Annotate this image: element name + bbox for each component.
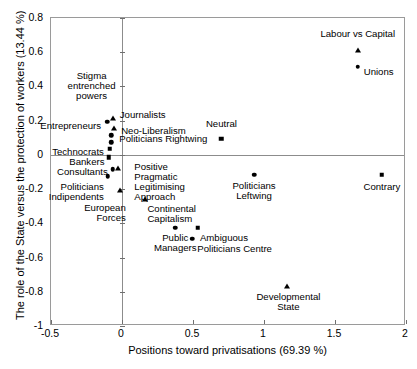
y-tick [120,223,125,224]
point-marker-triangle [110,116,116,121]
point-marker-square [219,136,224,141]
point-marker-circle [252,172,257,177]
point-label: Contrary [363,182,400,192]
plot-area: Labour vs CapitalUnionsNeutralStigma ent… [50,17,405,325]
point-label: Continental Capitalism [147,204,196,224]
point-label: European Forces [84,203,126,223]
point-marker-triangle [111,126,117,131]
point-label: Politicians Leftwing [232,181,275,201]
y-tick [120,52,125,53]
point-label: Politicians Indipendents [49,182,104,202]
point-marker-circle [105,119,110,124]
point-marker-triangle [355,47,361,52]
x-tick-label: -0.5 [41,327,59,339]
point-label: Unions [364,67,394,77]
x-tick [122,320,123,324]
x-tick [406,320,407,324]
x-axis-title: Positions toward privatisations (69.39 %… [50,344,405,356]
point-label: Consultants [57,167,108,177]
x-zero-reference-line [122,18,123,324]
y-tick-label: 0 [37,148,43,160]
point-marker-circle [173,225,178,230]
y-tick-label: -0.6 [25,251,43,263]
y-tick [120,86,125,87]
point-marker-circle [109,133,114,138]
point-marker-circle [190,236,195,241]
point-label: Developmental State [256,292,320,312]
y-tick [120,18,125,19]
y-tick-label: -0.8 [25,285,43,297]
x-tick-label: 1.5 [327,327,342,339]
scatter-chart: The role of the State versus the protect… [0,0,417,369]
y-axis-title: The role of the State versus the protect… [14,11,26,320]
y-tick [120,292,125,293]
point-marker-triangle [115,165,121,170]
point-marker-circle [355,65,360,70]
y-tick [120,121,125,122]
y-tick [120,258,125,259]
y-tick-label: 0.6 [28,45,43,57]
y-tick-label: -0.2 [25,182,43,194]
point-label: Politicians Centre [197,244,272,254]
point-label: Journalists [120,110,166,120]
x-tick-label: 0 [118,327,124,339]
y-tick-label: -0.4 [25,216,43,228]
point-marker-square [108,147,113,152]
x-tick [51,320,52,324]
point-label: Labour vs Capital [320,29,395,39]
x-tick [335,320,336,324]
y-tick [120,155,125,156]
x-tick [264,320,265,324]
x-tick-label: 1 [260,327,266,339]
point-label: Ambiguous [200,233,248,243]
x-tick-label: 2 [402,327,408,339]
point-label: Politicians Rightwing [119,134,207,144]
point-label: Stigma entrenched powers [68,71,116,102]
point-marker-square [196,225,201,230]
y-tick-label: 0.8 [28,11,43,23]
point-label: Public Managers [154,233,197,253]
point-label: Neutral [206,119,237,129]
y-tick [120,326,125,327]
point-marker-triangle [142,196,148,201]
x-tick-label: 0.5 [185,327,200,339]
x-tick [193,320,194,324]
point-marker-triangle [284,283,290,288]
point-marker-square [380,172,385,177]
point-label: Entrepreneurs [40,121,101,131]
point-marker-square [106,155,111,160]
point-marker-circle [109,140,114,145]
point-marker-triangle [117,187,123,192]
y-tick-label: 0.4 [28,79,43,91]
point-marker-circle [106,174,111,179]
